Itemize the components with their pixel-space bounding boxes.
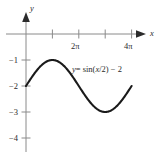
y-axis-arrow-icon — [22, 12, 30, 22]
y-axis-label: y — [30, 4, 34, 13]
x-axis-arrow-icon — [136, 30, 146, 38]
equation-tail: /2) − 2 — [99, 64, 122, 74]
x-tick-label-4pi: 4π — [124, 42, 133, 51]
x-tick-label-2pi: 2π — [71, 42, 80, 51]
plot-canvas — [0, 0, 164, 155]
equation-operator: = sin( — [76, 64, 96, 74]
y-tick-label-minus4: −4 — [9, 134, 18, 143]
y-tick-label-minus2: −2 — [9, 82, 18, 91]
equation-annotation: y= sin(x/2) − 2 — [72, 65, 122, 74]
graph-figure: y x 2π 4π −1 −2 −3 −4 y= sin(x/2) − 2 — [0, 0, 164, 155]
y-tick-label-minus1: −1 — [9, 56, 18, 65]
x-axis-label: x — [150, 29, 154, 38]
y-tick-label-minus3: −3 — [9, 108, 18, 117]
